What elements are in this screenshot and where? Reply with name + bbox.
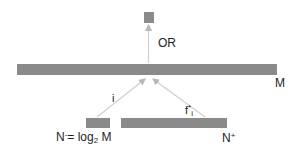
feature-bar-label-sup: +: [231, 131, 236, 140]
index-arrow: [97, 79, 145, 117]
or-label: OR: [158, 37, 176, 49]
index-bar-label-mid: = log: [67, 130, 93, 144]
feature-arrow: [153, 79, 205, 117]
index-bar: [86, 118, 110, 128]
feature-bar-label-n: N: [222, 131, 231, 145]
feature-bar: [121, 118, 227, 128]
index-edge-label: i: [112, 92, 114, 104]
index-bar-label-suffix: M: [98, 130, 111, 144]
main-bar-label: M: [275, 77, 285, 89]
output-block: [144, 12, 154, 23]
index-bar-label-n: N: [56, 130, 65, 144]
feature-bar-label: N+: [222, 130, 235, 144]
feature-edge-label-sub: i: [191, 109, 193, 118]
main-bar: [17, 64, 277, 75]
index-bar-label: N-= log2 M: [56, 129, 112, 147]
